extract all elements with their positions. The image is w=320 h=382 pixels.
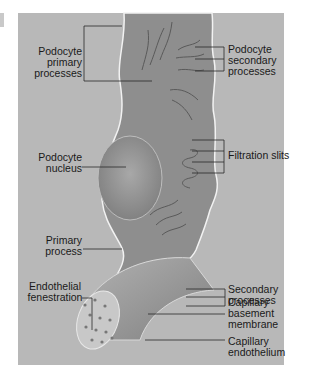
label-line: fenestration xyxy=(22,292,88,303)
nucleus-shape xyxy=(98,136,162,220)
label-line: Filtration slits xyxy=(228,150,289,161)
label-primary-process: Primary process xyxy=(20,235,82,257)
label-line: endothelium xyxy=(228,347,285,358)
label-line: processes xyxy=(228,66,276,77)
label-endothelial-fenestration: Endothelial fenestration xyxy=(22,281,88,303)
label-capillary-endothelium: Capillary endothelium xyxy=(228,336,285,358)
label-line: process xyxy=(20,246,82,257)
label-podocyte-nucleus: Podocyte nucleus xyxy=(20,152,82,174)
label-filtration-slits: Filtration slits xyxy=(228,150,289,161)
label-podocyte-primary-processes: Podocyte primary processes xyxy=(20,46,82,79)
label-line: membrane xyxy=(228,319,278,330)
label-podocyte-secondary-processes: Podocyte secondary processes xyxy=(228,44,276,77)
label-line: nucleus xyxy=(20,163,82,174)
label-line: processes xyxy=(20,68,82,79)
label-capillary-basement-membrane: Capillary basement membrane xyxy=(228,297,278,330)
